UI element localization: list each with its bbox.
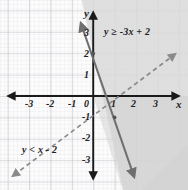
y-tick--1: -1 [82,112,90,122]
inequality-label-1: y ≥ -3x + 2 [104,27,150,37]
x-tick-1: 1 [111,99,116,109]
inequality-graph-figure: y x 0 -3 -2 -1 1 2 3 3 2 1 -1 -2 -3 y ≥ … [0,0,188,190]
x-tick--3: -3 [25,99,33,109]
point-y-intercept-solid [91,52,95,56]
point-intersection [113,116,117,120]
x-tick-3: 3 [153,99,158,109]
tick-origin: 0 [84,99,89,109]
x-tick--1: -1 [68,99,76,109]
y-tick--2: -2 [82,133,90,143]
y-tick-3: 3 [84,28,89,38]
x-axis-label: x [176,99,182,110]
y-axis-label: y [84,8,89,19]
y-tick-1: 1 [84,70,89,80]
x-tick-2: 2 [131,99,136,109]
y-tick--3: -3 [82,155,90,165]
inequality-label-2: y < x - 2 [22,145,57,155]
x-tick--2: -2 [46,99,54,109]
y-tick-2: 2 [84,49,89,59]
coordinate-plane-svg [0,0,188,190]
